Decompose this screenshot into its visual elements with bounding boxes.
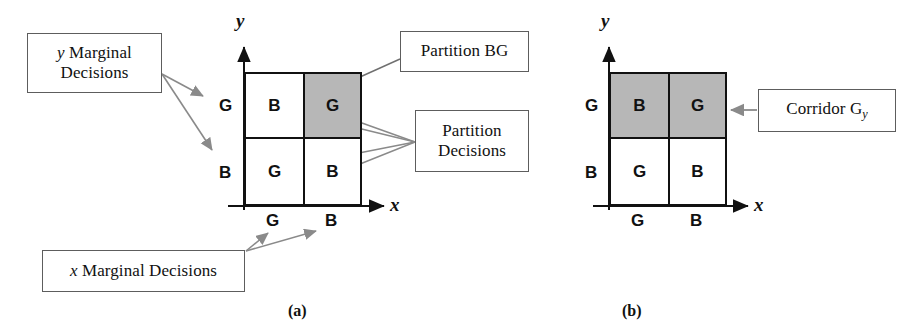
figure-container: y Marginal Decisions x Marginal Decision… [0,0,910,336]
panel-a-cell-top-right: G [303,74,360,139]
panel-b-grid: B G G B [609,72,727,206]
panel-b-y-axis-label: y [601,10,609,32]
panel-a-y-tick-G: G [219,96,232,116]
panel-b-x-axis-label: x [754,194,764,216]
panel-b-caption: (b) [622,302,642,320]
panel-a-y-axis-label: y [236,10,244,32]
panel-a-cell-top-left: B [246,74,303,139]
panel-b-cell-bottom-left: G [611,139,668,204]
panel-b: B G G B y x G B G B (b) [455,0,910,336]
panel-a-cell-bottom-right: B [303,139,360,204]
panel-a-grid: B G G B [244,72,362,206]
panel-b-x-tick-G: G [631,211,644,231]
panel-a: B G G B y x G B G B (a) [0,0,455,336]
panel-b-cell-top-left: B [611,74,668,139]
panel-b-y-tick-B: B [585,163,597,183]
panel-a-cell-bottom-left: G [246,139,303,204]
panel-a-x-axis-label: x [390,194,400,216]
panel-a-x-tick-G: G [266,211,279,231]
panel-a-x-tick-B: B [325,211,337,231]
panel-a-y-tick-B: B [219,163,231,183]
panel-b-cell-top-right: G [668,74,725,139]
panel-a-caption: (a) [288,302,307,320]
panel-b-y-tick-G: G [585,96,598,116]
panel-b-x-tick-B: B [690,211,702,231]
panel-b-cell-bottom-right: B [668,139,725,204]
